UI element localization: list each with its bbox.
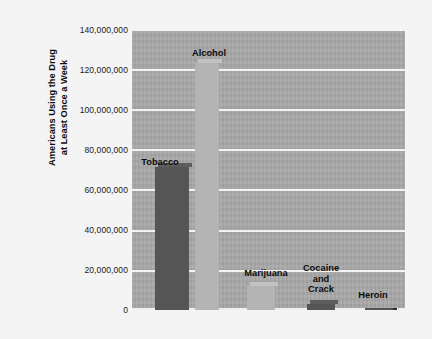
gridline-140m bbox=[132, 29, 405, 31]
y-tick-80m: 80,000,000 bbox=[32, 145, 128, 155]
bar-marijuana-front-face bbox=[247, 286, 275, 310]
bar-label-marijuana: Marijuana bbox=[237, 268, 295, 279]
bar-alcohol[interactable] bbox=[195, 63, 219, 310]
bar-alcohol-front-face bbox=[195, 63, 219, 310]
y-axis-tick-labels: 140,000,000 120,000,000 100,000,000 80,0… bbox=[28, 29, 128, 310]
bar-heroin-side-face bbox=[393, 308, 397, 310]
gridline-120m bbox=[132, 69, 405, 71]
bar-tobacco-front-face bbox=[155, 167, 189, 310]
gridline-80m bbox=[132, 149, 405, 151]
chart-screenshot: Americans Using the Drug at Least Once a… bbox=[0, 0, 432, 339]
y-tick-100m: 100,000,000 bbox=[32, 105, 128, 115]
bar-label-alcohol: Alcohol bbox=[178, 48, 240, 59]
y-tick-60m: 60,000,000 bbox=[32, 185, 128, 195]
y-tick-40m: 40,000,000 bbox=[32, 225, 128, 235]
bar-cocaine-front-face bbox=[307, 304, 335, 310]
bar-heroin[interactable] bbox=[365, 308, 393, 310]
y-tick-20m: 20,000,000 bbox=[32, 265, 128, 275]
bar-marijuana[interactable] bbox=[247, 286, 275, 310]
bar-label-cocaine-and-crack: Cocaine and Crack bbox=[294, 263, 348, 295]
bar-tobacco[interactable] bbox=[155, 167, 189, 310]
y-tick-0: 0 bbox=[32, 305, 128, 315]
y-tick-120m: 120,000,000 bbox=[32, 65, 128, 75]
bar-cocaine-and-crack[interactable] bbox=[307, 304, 335, 310]
y-tick-140m: 140,000,000 bbox=[32, 25, 128, 35]
bar-label-tobacco: Tobacco bbox=[131, 157, 189, 168]
bar-label-heroin: Heroin bbox=[350, 290, 396, 301]
bar-heroin-front-face bbox=[365, 308, 393, 310]
gridline-100m bbox=[132, 109, 405, 111]
